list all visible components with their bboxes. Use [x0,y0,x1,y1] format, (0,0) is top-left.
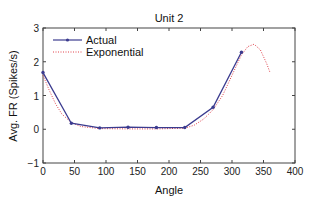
y-tick-label: 0 [33,124,39,135]
x-tick-label: 0 [40,166,46,177]
plot-frame [43,28,295,163]
x-tick-label: 50 [69,166,81,177]
x-tick-label: 250 [192,166,209,177]
legend-actual-label: Actual [86,34,117,46]
data-point [70,121,73,124]
data-point [240,51,243,54]
data-point [98,126,101,129]
y-tick-label: −1 [28,158,40,169]
x-tick-label: 150 [129,166,146,177]
data-point [41,71,44,74]
series-actual-line [43,52,241,128]
series-exponential-line [43,44,270,129]
data-point [183,126,186,129]
x-axis-label: Angle [155,184,183,196]
y-axis-label: Avg. FR (Spikes/s) [7,50,19,142]
data-point [126,126,129,129]
y-tick-label: 2 [33,57,39,68]
data-point [155,126,158,129]
legend-exponential-label: Exponential [86,46,144,58]
plot-axes: 050100150200250300350400−10123 [28,23,304,177]
x-tick-label: 400 [287,166,304,177]
y-tick-label: 1 [33,91,39,102]
plot-series [41,44,269,129]
x-tick-label: 100 [98,166,115,177]
legend: Actual Exponential [53,34,144,58]
legend-actual-marker [66,38,69,41]
y-tick-label: 3 [33,23,39,34]
line-chart: Unit 2 050100150200250300350400−10123 Ac… [0,0,320,205]
data-point [211,106,214,109]
chart-title: Unit 2 [155,12,184,24]
x-tick-label: 300 [224,166,241,177]
x-tick-label: 350 [255,166,272,177]
x-tick-label: 200 [161,166,178,177]
